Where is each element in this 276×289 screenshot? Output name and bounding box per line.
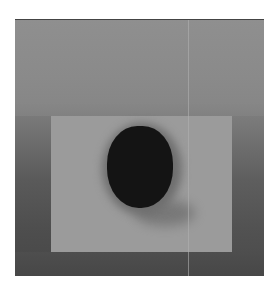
scan-line-artifact <box>188 20 189 276</box>
bottom-dark-border <box>15 252 264 276</box>
grayscale-image <box>15 19 264 276</box>
top-gray-region <box>15 20 264 116</box>
dark-blob <box>107 126 173 208</box>
